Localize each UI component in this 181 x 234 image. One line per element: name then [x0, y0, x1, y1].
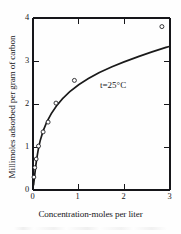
- x-axis-ticks: [33, 18, 170, 190]
- x-tick-label: 1: [76, 192, 80, 201]
- y-tick-label: 3: [25, 56, 29, 65]
- data-point: [34, 157, 38, 161]
- data-point: [32, 175, 36, 179]
- plot-canvas: [0, 0, 181, 234]
- x-axis-label: Concentration-moles per liter: [0, 209, 181, 219]
- data-point-markers: [32, 25, 164, 179]
- y-tick-label: 1: [25, 142, 29, 151]
- data-point: [37, 144, 41, 148]
- data-point: [54, 101, 58, 105]
- y-tick-label: 4: [25, 13, 29, 22]
- data-point: [72, 78, 76, 82]
- scan-artifact-text-line: [14, 227, 167, 230]
- data-point: [46, 120, 50, 124]
- x-tick-label: 2: [122, 192, 126, 201]
- x-tick-label: 0: [31, 192, 35, 201]
- data-point: [160, 25, 164, 29]
- x-tick-label: 3: [168, 192, 172, 201]
- axis-frame: [33, 18, 170, 190]
- data-point: [41, 130, 45, 134]
- adsorption-isotherm-figure: Millimoles adsorbed per gram of carbon: [0, 0, 181, 234]
- temperature-annotation: t=25°C: [100, 80, 126, 90]
- y-tick-label: 2: [25, 99, 29, 108]
- data-point: [33, 166, 37, 170]
- isotherm-curve: [34, 46, 170, 185]
- y-axis-ticks: [33, 18, 170, 190]
- y-tick-label: 0: [25, 185, 29, 194]
